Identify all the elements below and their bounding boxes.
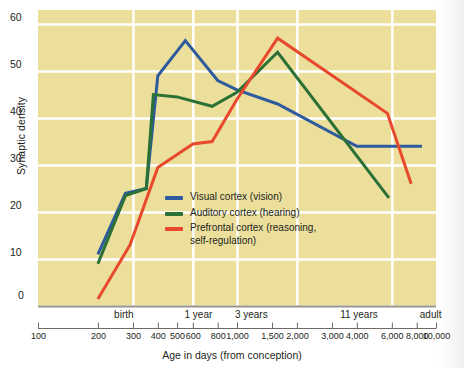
legend-item-auditory[interactable]: Auditory cortex (hearing) xyxy=(165,207,316,220)
x-scale-label-400: 400 xyxy=(151,331,166,341)
x-scale-label-300: 300 xyxy=(126,331,141,341)
legend: Visual cortex (vision) Auditory cortex (… xyxy=(165,191,316,250)
x-scale-label-600: 600 xyxy=(186,331,201,341)
legend-label-prefrontal: Prefrontal cortex (reasoning, self-regul… xyxy=(190,222,316,247)
scale-ruler xyxy=(0,0,464,368)
synaptic-density-chart: Synaptic density 60 50 40 30 20 10 0 bir… xyxy=(0,0,464,368)
legend-item-prefrontal[interactable]: Prefrontal cortex (reasoning, self-regul… xyxy=(165,222,316,247)
x-scale-label-800: 800 xyxy=(211,331,226,341)
x-scale-label-1500: 1,500 xyxy=(261,331,284,341)
x-scale-label-6000: 6,000 xyxy=(381,331,404,341)
x-scale-label-4000: 4,000 xyxy=(346,331,369,341)
legend-label-auditory: Auditory cortex (hearing) xyxy=(190,207,300,220)
legend-label-visual: Visual cortex (vision) xyxy=(190,191,282,204)
x-axis-title: Age in days (from conception) xyxy=(0,349,464,361)
x-scale-label-3000: 3,000 xyxy=(321,331,344,341)
ruler-ticks xyxy=(39,323,437,329)
x-scale-label-1000: 1,000 xyxy=(226,331,249,341)
x-scale-label-10000: 10,000 xyxy=(423,331,451,341)
legend-swatch-prefrontal xyxy=(165,227,183,231)
x-scale-label-200: 200 xyxy=(91,331,106,341)
x-scale-label-2000: 2,000 xyxy=(286,331,309,341)
x-scale-label-100: 100 xyxy=(31,331,46,341)
legend-swatch-auditory xyxy=(165,212,183,216)
x-scale-label-500: 500 xyxy=(170,331,185,341)
legend-swatch-visual xyxy=(165,196,183,200)
legend-item-visual[interactable]: Visual cortex (vision) xyxy=(165,191,316,204)
